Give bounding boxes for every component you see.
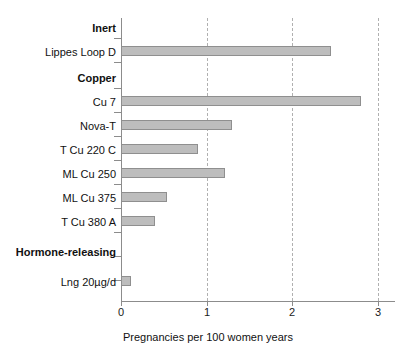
bar-t-cu-220-c [121,144,198,154]
x-tick-label-3: 3 [363,306,393,319]
bar-chart: 0 1 2 3 Inert Lippes Loop D Copper Cu 7 … [0,0,416,349]
category-label-lng-20ug-d: Lng 20µg/d [4,276,116,288]
category-label-column: Inert Lippes Loop D Copper Cu 7 Nova-T T… [0,0,116,349]
x-axis-line [121,301,395,302]
category-label-t-cu-380-a: T Cu 380 A [4,216,116,228]
x-axis-title: Pregnancies per 100 women years [0,331,416,343]
bar-ml-cu-375 [121,192,167,202]
group-label-inert: Inert [4,22,116,34]
category-label-t-cu-220-c: T Cu 220 C [4,144,116,156]
category-label-lippes-loop-d: Lippes Loop D [4,46,116,58]
category-label-ml-cu-250: ML Cu 250 [4,168,116,180]
bar-ml-cu-250 [121,168,225,178]
group-label-copper: Copper [4,72,116,84]
gridline-3 [378,18,379,301]
bar-lng-20ug-d [121,276,131,286]
category-label-cu-7: Cu 7 [4,96,116,108]
group-label-hormone-releasing: Hormone-releasing [4,246,116,258]
bar-lippes-loop-d [121,46,331,56]
y-axis-line [121,18,122,301]
bar-nova-t [121,120,232,130]
category-label-ml-cu-375: ML Cu 375 [4,192,116,204]
bar-t-cu-380-a [121,216,155,226]
x-tick-label-2: 2 [277,306,307,319]
gridline-2 [292,18,293,301]
x-tick-label-1: 1 [192,306,222,319]
bar-cu-7 [121,96,361,106]
gridline-1 [207,18,208,301]
category-label-nova-t: Nova-T [4,120,116,132]
